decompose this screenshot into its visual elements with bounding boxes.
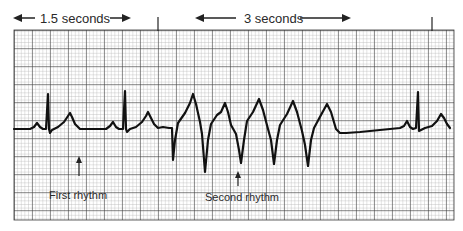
first-rhythm-label: First rhythm [49, 189, 107, 201]
timing-text-2: 3 seconds [244, 11, 304, 26]
arrow-right-icon [342, 14, 351, 22]
ecg-figure: 1.5 seconds 3 seconds First rhythm Secon… [0, 0, 463, 231]
timing-label-3s: 3 seconds [195, 11, 351, 26]
timing-text-1: 1.5 seconds [40, 11, 111, 26]
second-rhythm-label: Second rhythm [205, 191, 279, 203]
timing-label-1.5s: 1.5 seconds [13, 11, 131, 26]
arrow-right-icon [122, 14, 131, 22]
